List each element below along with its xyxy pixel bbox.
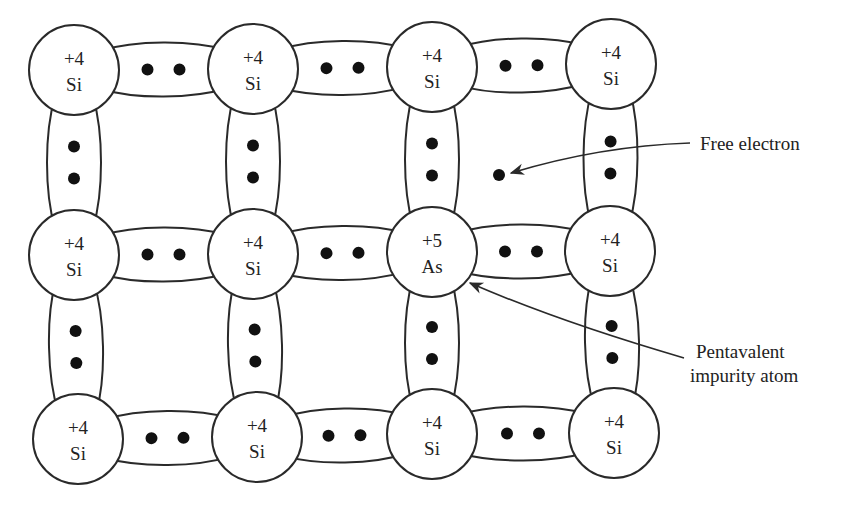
electron-dot [173,63,185,75]
atom-charge: +4 [64,233,85,254]
electron-dot [173,248,185,260]
electron-dot [141,249,153,261]
impurity-label-line2: impurity atom [690,364,798,388]
crystal-lattice-diagram: +4Si+4Si+4Si+4Si+4Si+4Si+5As+4Si+4Si+4Si… [0,0,851,507]
atom-charge: +5 [422,230,442,251]
atom-symbol: Si [606,437,622,458]
silicon-atom: +4Si [387,389,477,479]
free-electron [493,169,505,181]
atom-charge: +4 [422,45,443,66]
silicon-atom: +4Si [387,22,477,112]
atom-charge: +4 [68,417,89,438]
electron-dot [605,135,617,147]
covalent-bonds [47,37,641,466]
electron-dot [247,172,259,184]
atom-symbol: Si [424,438,440,459]
silicon-atom: +4Si [29,210,119,300]
electron-dot [68,173,80,185]
silicon-atom: +4Si [208,209,298,299]
atom-symbol: As [421,256,442,277]
electron-dot [499,246,511,258]
atom-symbol: Si [602,255,618,276]
silicon-atom: +4Si [565,206,655,296]
impurity-label-line1: Pentavalent [696,340,785,364]
electron-dot [247,140,259,152]
atom-charge: +4 [604,411,625,432]
silicon-atom: +4Si [208,24,298,114]
atom-charge: +4 [601,42,622,63]
electron-dot [533,427,545,439]
atom-symbol: Si [424,71,440,92]
impurity-arrow [470,283,684,358]
silicon-atom: +4Si [566,19,656,109]
silicon-atom: +4Si [29,25,119,115]
free-electron-label: Free electron [700,132,800,156]
atom-charge: +4 [64,48,85,69]
electron-dot [68,141,80,153]
atom-symbol: Si [66,259,82,280]
electron-dot [604,167,616,179]
atom-symbol: Si [245,73,261,94]
atom-charge: +4 [247,415,268,436]
electron-dot [501,428,513,440]
electron-dot [426,321,438,333]
atom-charge: +4 [243,47,264,68]
atom-symbol: Si [70,443,86,464]
electron-dot [426,138,438,150]
arsenic-atom: +5As [387,207,477,297]
atom-charge: +4 [422,412,443,433]
silicon-atom: +4Si [212,392,302,482]
atom-symbol: Si [245,258,261,279]
electron-dot [426,353,438,365]
electron-dot [426,170,438,182]
electron-dot [531,245,543,257]
atom-symbol: Si [249,441,265,462]
silicon-atom: +4Si [569,388,659,478]
electron-dot [141,64,153,76]
atom-symbol: Si [603,68,619,89]
silicon-atom: +4Si [33,394,123,484]
atom-charge: +4 [600,229,621,250]
atom-symbol: Si [66,74,82,95]
atom-charge: +4 [243,232,264,253]
